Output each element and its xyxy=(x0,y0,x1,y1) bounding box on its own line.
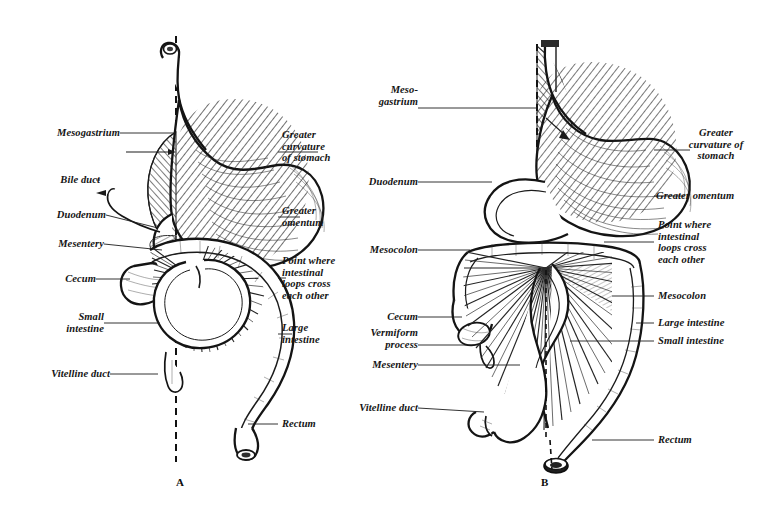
label-vermiform-process-b: Vermiform process xyxy=(330,327,418,350)
label-mesogastrium-b: Meso- gastrium xyxy=(344,84,418,107)
label-mesentery-b: Mesentery xyxy=(334,359,418,371)
panel-caption-b: B xyxy=(541,476,549,488)
label-vitelline-duct-b: Vitelline duct xyxy=(318,402,418,414)
label-rectum-b: Rectum xyxy=(658,434,738,446)
label-mesocolon-b-right: Mesocolon xyxy=(658,290,758,302)
label-mesogastrium-a: Mesogastrium xyxy=(10,127,120,139)
label-greater-curvature-a: Greater curvature of stomach xyxy=(282,129,392,164)
label-greater-curvature-b: Greater curvature of stomach xyxy=(658,127,774,162)
label-point-where-a: Point where intestinal loops cross each … xyxy=(282,255,386,301)
label-small-intestine-a: Small intestine xyxy=(10,311,104,334)
label-small-intestine-b: Small intestine xyxy=(658,335,768,347)
label-cecum-a: Cecum xyxy=(10,273,96,285)
leader-vitelline-b xyxy=(418,408,484,412)
transverse-colon-b xyxy=(468,241,640,268)
label-mesentery-a: Mesentery xyxy=(10,238,104,250)
label-point-where-b: Point where intestinal loops cross each … xyxy=(658,219,772,265)
label-bile-duct-a: Bile duct xyxy=(10,174,100,186)
label-rectum-a: Rectum xyxy=(282,418,362,430)
label-greater-omentum-a: Greater omentum xyxy=(282,205,382,228)
label-greater-omentum-b: Greater omentum xyxy=(656,190,780,202)
label-duodenum-b: Duodenum xyxy=(334,176,418,188)
bile-duct-arrow xyxy=(96,190,106,196)
panel-caption-a: A xyxy=(176,476,184,488)
anatomical-figure: Mesogastrium Bile duct Duodenum Mesenter… xyxy=(0,0,780,523)
label-mesocolon-b-left: Mesocolon xyxy=(334,244,418,256)
ascending-colon-b xyxy=(453,252,495,368)
vitelline-duct-a xyxy=(165,352,183,392)
panel-a-drawing xyxy=(96,36,340,462)
label-duodenum-a: Duodenum xyxy=(10,209,106,221)
rectum-a xyxy=(235,428,258,460)
label-large-intestine-b: Large intestine xyxy=(658,317,768,329)
label-cecum-b: Cecum xyxy=(340,311,418,323)
label-vitelline-duct-a: Vitelline duct xyxy=(6,368,110,380)
